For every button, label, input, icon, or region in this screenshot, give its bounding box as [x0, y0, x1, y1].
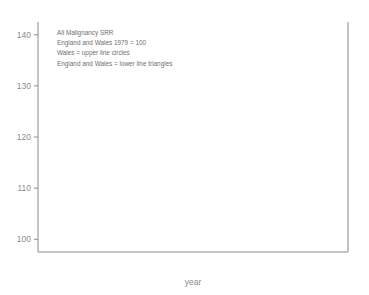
chart-background	[0, 0, 369, 295]
y-tick-label: 140	[17, 30, 31, 40]
srr-line-chart: All Malignancy SRREngland and Wales 1979…	[0, 0, 369, 295]
annotation-line-2: England and Wales 1979 = 100	[57, 39, 147, 47]
y-tick-label: 100	[17, 234, 31, 244]
y-tick-label: 120	[17, 132, 31, 142]
y-tick-label: 130	[17, 81, 31, 91]
annotation-line-1: All Malignancy SRR	[57, 29, 114, 37]
chart-container: All Malignancy SRREngland and Wales 1979…	[0, 0, 369, 295]
y-tick-label: 110	[17, 183, 31, 193]
annotation-line-4: England and Wales = lower line triangles	[57, 60, 172, 68]
x-axis-title: year	[185, 277, 202, 287]
annotation-line-3: Wales = upper line circles	[57, 49, 130, 57]
